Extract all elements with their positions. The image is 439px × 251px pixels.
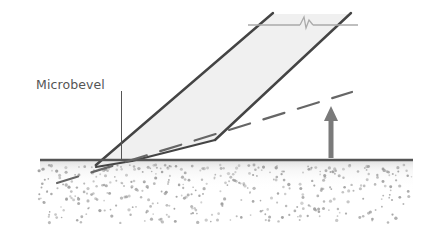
raise-arrow	[324, 106, 338, 158]
material-texture	[38, 160, 413, 224]
microbevel-diagram	[0, 0, 439, 251]
microbevel-label: Microbevel	[36, 77, 105, 92]
blade-body	[97, 14, 350, 163]
